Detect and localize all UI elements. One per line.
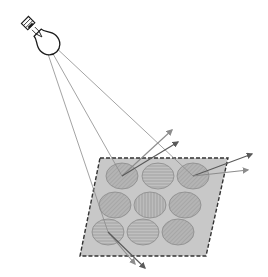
circle-patch xyxy=(169,192,201,218)
incident-ray xyxy=(48,45,122,176)
incident-ray xyxy=(46,48,108,232)
incident-ray xyxy=(52,44,193,176)
circle-patch xyxy=(127,219,159,245)
circle-patch xyxy=(162,219,194,245)
circle-grid xyxy=(92,163,209,245)
circle-patch xyxy=(99,192,131,218)
circle-patch xyxy=(142,163,174,189)
circle-patch xyxy=(134,192,166,218)
diagram-canvas xyxy=(0,0,268,277)
light-bulb-icon xyxy=(17,12,64,59)
